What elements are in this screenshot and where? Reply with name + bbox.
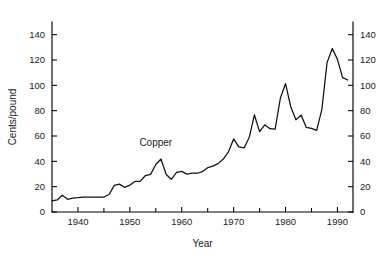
copper-price-chart: · · · · · · 194019501960197019801990 020… xyxy=(0,0,391,258)
y-axis-left-tick-label: 140 xyxy=(29,29,45,40)
y-axis-right-tick-label: 0 xyxy=(360,206,365,217)
x-axis-tick-label: 1980 xyxy=(275,216,296,227)
y-axis-left-tick-label: 100 xyxy=(29,80,45,91)
y-axis-left-tick-label: 0 xyxy=(40,206,45,217)
y-axis-right-tick-label: 140 xyxy=(360,29,376,40)
y-axis-left-tick-label: 60 xyxy=(34,130,45,141)
y-axis-left-tick-label: 120 xyxy=(29,54,45,65)
x-axis-tick-label: 1970 xyxy=(223,216,244,227)
x-axis-title: Year xyxy=(192,238,213,249)
y-axis-right-tick-label: 80 xyxy=(360,105,371,116)
x-axis-tick-label: 1960 xyxy=(171,216,192,227)
chart-plot-area: 194019501960197019801990 020406080100120… xyxy=(0,0,391,258)
copper-series-line xyxy=(52,48,348,201)
x-axis-tick-group: 194019501960197019801990 xyxy=(67,207,348,227)
y-axis-title: Cents/pound xyxy=(7,89,18,146)
x-axis-tick-label: 1940 xyxy=(67,216,88,227)
x-axis-tick-label: 1950 xyxy=(119,216,140,227)
y-axis-right-tick-label: 100 xyxy=(360,80,376,91)
y-axis-right-tick-group: 020406080100120140 xyxy=(348,29,376,217)
y-axis-left-tick-label: 40 xyxy=(34,156,45,167)
y-axis-left-tick-group: 020406080100120140 xyxy=(29,29,57,217)
y-axis-left-tick-label: 80 xyxy=(34,105,45,116)
y-axis-right-tick-label: 120 xyxy=(360,54,376,65)
series-annotation-copper: Copper xyxy=(139,137,172,148)
y-axis-left-tick-label: 20 xyxy=(34,181,45,192)
y-axis-right-tick-label: 40 xyxy=(360,156,371,167)
y-axis-right-tick-label: 20 xyxy=(360,181,371,192)
y-axis-right-tick-label: 60 xyxy=(360,130,371,141)
x-axis-tick-label: 1990 xyxy=(327,216,348,227)
